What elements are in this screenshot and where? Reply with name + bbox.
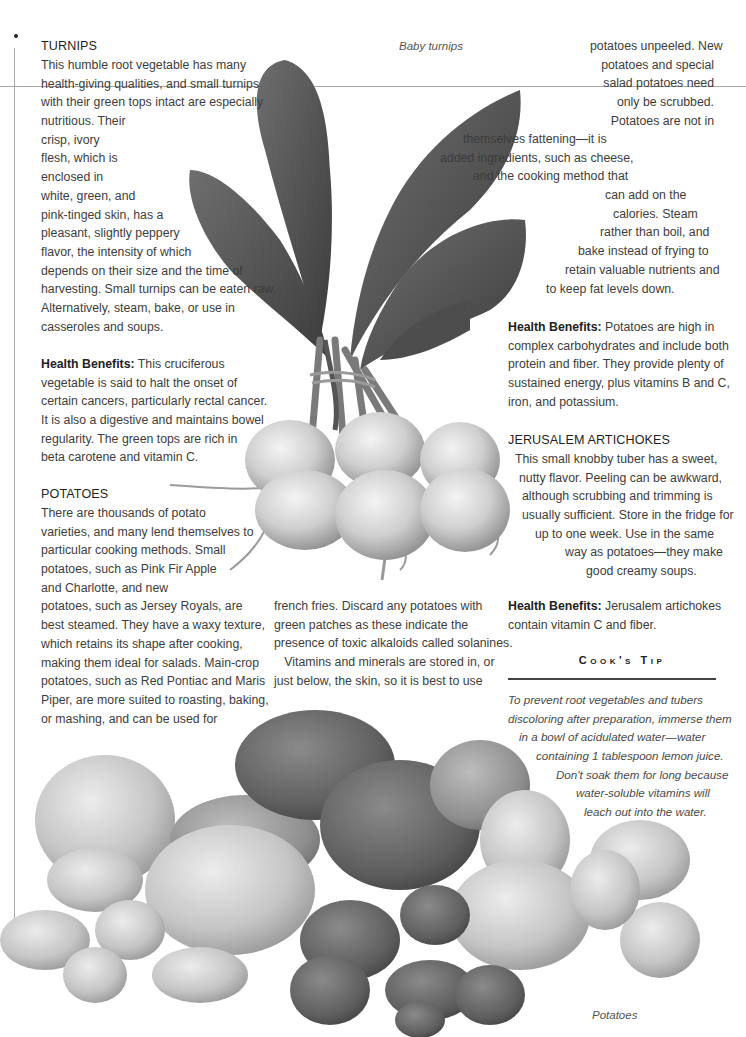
text-line: potatoes, such as Red Pontiac and Maris xyxy=(41,672,269,691)
text-line: green patches as these indicate the xyxy=(274,616,513,635)
jerusalem-artichokes-health-benefits: Health Benefits: Jerusalem artichokes co… xyxy=(508,597,721,634)
text-line: white, green, and xyxy=(41,187,276,206)
text-line: certain cancers, particularly rectal can… xyxy=(41,392,267,411)
text-line: themselves fattening—it is xyxy=(463,130,714,149)
cooks-tip-body: To prevent root vegetables and tubers di… xyxy=(508,691,718,822)
potatoes-body-col3: potatoes unpeeled. New potatoes and spec… xyxy=(530,37,714,130)
text-line: and Charlotte, and new xyxy=(41,579,269,598)
text-line: or mashing, and can be used for xyxy=(41,710,269,729)
text-line: flavor, the intensity of which xyxy=(41,243,276,262)
text-line: way as potatoes—they make xyxy=(565,543,734,562)
text-line: Piper, are more suited to roasting, baki… xyxy=(41,691,269,710)
text-line: discoloring after preparation, immerse t… xyxy=(508,710,718,729)
text-line: rather than boil, and xyxy=(600,223,714,242)
turnips-heading: TURNIPS xyxy=(41,37,97,56)
text-line: complex carbohydrates and include both xyxy=(508,337,730,356)
text-line: which retains its shape after cooking, xyxy=(41,635,269,654)
potatoes-body-col2: french fries. Discard any potatoes with … xyxy=(274,597,513,690)
text-line: leach out into the water. xyxy=(584,803,718,822)
text-line: particular cooking methods. Small xyxy=(41,541,269,560)
text-line: sustained energy, plus vitamins B and C, xyxy=(508,374,730,393)
health-benefits-label: Health Benefits: xyxy=(508,599,602,613)
cooks-tip-rule xyxy=(508,678,716,680)
text-line: only be scrubbed. xyxy=(530,93,714,112)
cooks-tip-title: Cook's Tip xyxy=(522,654,722,666)
text-line: potatoes and special xyxy=(530,56,714,75)
text-line: Don't soak them for long because xyxy=(556,766,718,785)
text-line: depends on their size and the time of xyxy=(41,262,276,281)
text-line: contain vitamin C and fiber. xyxy=(508,616,721,635)
text-line: It is also a digestive and maintains bow… xyxy=(41,411,267,430)
margin-bullet xyxy=(14,34,18,38)
text-line: beta carotene and vitamin C. xyxy=(41,448,267,467)
text-line: To prevent root vegetables and tubers xyxy=(508,691,718,710)
text-line: nutty flavor. Peeling can be awkward, xyxy=(519,469,734,488)
text-line: There are thousands of potato xyxy=(41,504,269,523)
caption-baby-turnips: Baby turnips xyxy=(399,40,463,52)
text-line: and the cooking method that xyxy=(473,167,714,186)
text-line: enclosed in xyxy=(41,168,276,187)
text-line: pleasant, slightly peppery xyxy=(41,224,276,243)
text-line: making them ideal for salads. Main-crop xyxy=(41,654,269,673)
text-line: up to one week. Use in the same xyxy=(535,525,734,544)
text-line: varieties, and many lend themselves to xyxy=(41,523,269,542)
text-line: Potatoes are not in xyxy=(530,112,714,131)
text-line: containing 1 tablespoon lemon juice. xyxy=(536,747,718,766)
text-line: This humble root vegetable has many xyxy=(41,56,276,75)
text-line: in a bowl of acidulated water—water xyxy=(519,728,718,747)
turnips-health-benefits: Health Benefits: This cruciferous vegeta… xyxy=(41,355,267,467)
text-line: potatoes, such as Pink Fir Apple xyxy=(41,560,269,579)
potatoes-health-benefits: Health Benefits: Potatoes are high in co… xyxy=(508,318,730,411)
text-line: to keep fat levels down. xyxy=(546,280,714,299)
text-line: best steamed. They have a waxy texture, xyxy=(41,616,269,635)
text-line: vegetable is said to halt the onset of xyxy=(41,374,267,393)
text-line: potatoes unpeeled. New xyxy=(530,37,714,56)
text-line: This small knobby tuber has a sweet, xyxy=(515,450,734,469)
text-line: french fries. Discard any potatoes with xyxy=(274,597,513,616)
text-line: retain valuable nutrients and xyxy=(565,261,714,280)
text-line: casseroles and soups. xyxy=(41,318,276,337)
text-line: Alternatively, steam, bake, or use in xyxy=(41,299,276,318)
text-line: good creamy soups. xyxy=(586,562,734,581)
text-line: calories. Steam xyxy=(613,205,714,224)
text-line: regularity. The green tops are rich in xyxy=(41,430,267,449)
text-line: Potatoes are high in xyxy=(602,320,715,334)
turnips-body: This humble root vegetable has many heal… xyxy=(41,56,276,336)
text-line: can add on the xyxy=(605,186,714,205)
text-line: presence of toxic alkaloids called solan… xyxy=(274,634,513,653)
text-line: nutritious. Their xyxy=(41,112,276,131)
text-line: protein and fiber. They provide plenty o… xyxy=(508,355,730,374)
text-line: This cruciferous xyxy=(135,357,225,371)
text-line: pink-tinged skin, has a xyxy=(41,206,276,225)
text-line: added ingredients, such as cheese, xyxy=(440,149,714,168)
health-benefits-label: Health Benefits: xyxy=(41,357,135,371)
text-line: Vitamins and minerals are stored in, or xyxy=(274,653,513,672)
potatoes-heading: POTATOES xyxy=(41,485,108,504)
potatoes-body-col1: There are thousands of potato varieties,… xyxy=(41,504,269,728)
text-line: crisp, ivory xyxy=(41,131,276,150)
text-line: iron, and potassium. xyxy=(508,393,730,412)
text-line: potatoes, such as Jersey Royals, are xyxy=(41,597,269,616)
potatoes-body-col3-cont: themselves fattening—it is added ingredi… xyxy=(530,130,714,298)
text-line: water-soluble vitamins will xyxy=(576,784,718,803)
text-line: usually sufficient. Store in the fridge … xyxy=(522,506,734,525)
text-line: with their green tops intact are especia… xyxy=(41,93,276,112)
jerusalem-artichokes-body: This small knobby tuber has a sweet, nut… xyxy=(508,450,734,581)
text-line: Jerusalem artichokes xyxy=(602,599,722,613)
health-benefits-label: Health Benefits: xyxy=(508,320,602,334)
text-line: salad potatoes need xyxy=(530,74,714,93)
text-line: flesh, which is xyxy=(41,149,276,168)
text-line: although scrubbing and trimming is xyxy=(522,487,734,506)
text-line: harvesting. Small turnips can be eaten r… xyxy=(41,280,276,299)
text-line: health-giving qualities, and small turni… xyxy=(41,75,276,94)
text-line: bake instead of frying to xyxy=(578,242,714,261)
text-line: just below, the skin, so it is best to u… xyxy=(274,672,513,691)
jerusalem-artichokes-heading: JERUSALEM ARTICHOKES xyxy=(508,431,670,450)
caption-potatoes: Potatoes xyxy=(592,1009,637,1021)
